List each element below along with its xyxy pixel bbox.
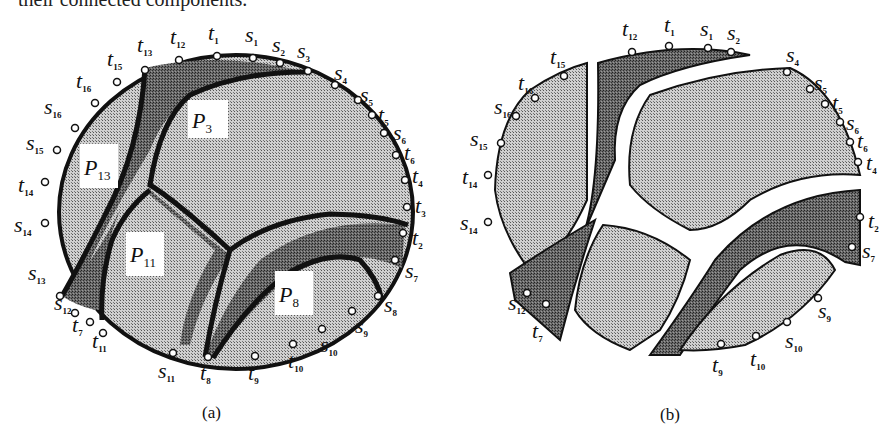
terminal-label: s4 (334, 60, 348, 86)
figure-b-caption: (b) (660, 405, 680, 424)
terminal-label: t14 (462, 164, 478, 190)
terminal-label: t5 (832, 90, 843, 116)
terminal-label: t12 (622, 16, 638, 42)
terminal-label: s10 (785, 328, 803, 354)
terminal-label: t3 (415, 193, 426, 219)
terminal-label: t16 (518, 70, 534, 96)
terminal-label: t5 (378, 102, 389, 128)
terminal-label: s2 (272, 32, 286, 58)
terminal-label: t7 (72, 312, 83, 338)
terminal-label: s4 (786, 42, 800, 68)
terminal-label: s16 (494, 94, 512, 120)
figure-a-caption: (a) (202, 403, 221, 422)
terminal-label: t4 (412, 163, 423, 189)
terminal-label: s3 (297, 38, 311, 64)
terminal-label: t15 (107, 46, 123, 72)
terminal-label: t15 (550, 44, 566, 70)
region-label-p3: P3 (188, 100, 228, 138)
terminal-label: s7 (862, 238, 876, 264)
terminal-label: t16 (76, 68, 92, 94)
terminal-label: t12 (170, 24, 186, 50)
figure-canvas: P3 P13 P11 P8 t12 (0, 0, 886, 433)
region-label-p8: P8 (275, 271, 313, 315)
terminal-label: s15 (26, 130, 44, 156)
terminal-label: s8 (384, 292, 398, 318)
region-label-p11: P11 (126, 232, 164, 276)
terminal-label: t9 (712, 352, 723, 378)
terminal-label: t1 (208, 20, 219, 46)
figure-b: t12 t1 s1 s2 t15 t16 s16 s15 t14 s14 s12… (460, 12, 879, 424)
terminal-label: s14 (460, 210, 478, 236)
terminal-label: t1 (664, 12, 675, 38)
terminal-label: t2 (412, 225, 423, 251)
terminal-label: s5 (814, 70, 828, 96)
terminal-label: t13 (137, 32, 153, 58)
terminal-label: s14 (14, 212, 32, 238)
terminal-label: s6 (846, 110, 860, 136)
terminal-label: t2 (868, 208, 879, 234)
terminal-label: s6 (393, 120, 407, 146)
region-label-p13: P13 (80, 144, 118, 188)
terminal-label: s1 (245, 22, 259, 48)
terminal-label: t10 (750, 346, 766, 372)
terminal-label: s7 (405, 258, 419, 284)
terminal-label: s1 (700, 16, 714, 42)
terminal-label: s11 (158, 358, 176, 384)
figure-a: P3 P13 P11 P8 t12 (14, 20, 426, 422)
terminal-label: t14 (18, 172, 34, 198)
terminal-label: s9 (818, 298, 832, 324)
terminal-label: s16 (44, 94, 62, 120)
terminal-label: s13 (28, 260, 46, 286)
terminal-label: s15 (470, 126, 488, 152)
terminal-label: t4 (866, 150, 877, 176)
terminal-label: s5 (360, 82, 374, 108)
terminal-label: s2 (727, 20, 741, 46)
